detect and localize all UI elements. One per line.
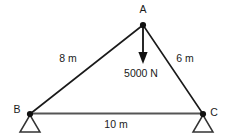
dimension-label-bc: 10 m (104, 118, 128, 130)
dimension-label-ac: 6 m (176, 52, 194, 64)
truss-diagram: A B C 8 m 6 m 10 m 5000 N (0, 0, 228, 138)
node-dot-c (200, 111, 206, 117)
load-label: 5000 N (124, 67, 158, 79)
figure-canvas: A B C 8 m 6 m 10 m 5000 N (0, 0, 228, 138)
node-dot-a (140, 22, 146, 28)
node-label-b: B (13, 103, 20, 115)
node-label-a: A (139, 3, 146, 15)
dimension-label-ab: 8 m (59, 52, 77, 64)
node-dot-b (27, 111, 33, 117)
node-label-c: C (210, 106, 218, 118)
